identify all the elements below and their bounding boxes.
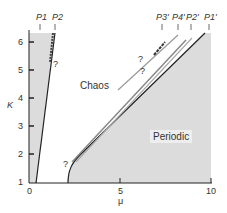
x-tick-5: 5 [118, 186, 123, 196]
label-p3-prime: P3' [156, 13, 169, 22]
chaos-region-label: Chaos [80, 80, 109, 91]
uncertain-marker: ? [138, 55, 143, 64]
label-p1: P1 [36, 13, 47, 22]
y-tick-6: 6 [18, 37, 23, 47]
uncertain-marker: ? [140, 67, 145, 76]
phase-diagram [0, 0, 227, 213]
x-tick-0: 0 [27, 186, 32, 196]
y-tick-1: 1 [18, 177, 23, 187]
uncertain-marker: ? [53, 60, 58, 69]
y-tick-3: 3 [18, 121, 23, 131]
label-p4-prime: P4' [172, 13, 185, 22]
label-p2: P2 [52, 13, 63, 22]
uncertain-marker: ? [63, 160, 68, 169]
y-tick-2: 2 [18, 149, 23, 159]
y-tick-5: 5 [18, 65, 23, 75]
x-axis-label: μ [118, 196, 123, 206]
label-p2-prime: P2' [186, 13, 199, 22]
y-tick-4: 4 [18, 93, 23, 103]
periodic-region-label: Periodic [150, 130, 192, 143]
label-p1-prime: P1' [204, 13, 217, 22]
y-axis-label: K [7, 100, 13, 110]
x-tick-10: 10 [206, 186, 216, 196]
